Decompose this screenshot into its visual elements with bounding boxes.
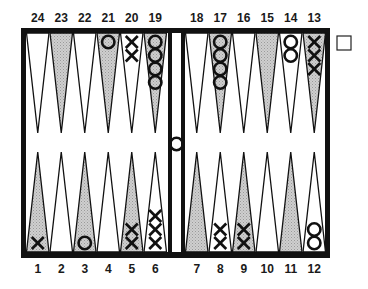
- label-point-11: 11: [284, 262, 297, 276]
- label-point-12: 12: [308, 262, 322, 276]
- doubling-cube[interactable]: [337, 36, 351, 50]
- bottom-point-labels: 123456789101112: [34, 262, 321, 276]
- label-point-13: 13: [308, 11, 322, 25]
- label-point-9: 9: [240, 262, 247, 276]
- label-point-17: 17: [214, 11, 228, 25]
- backgammon-board-diagram: 242322212019181716151413 123456789101112: [0, 0, 368, 289]
- label-point-10: 10: [261, 262, 275, 276]
- label-point-16: 16: [237, 11, 251, 25]
- label-point-14: 14: [284, 11, 298, 25]
- label-point-20: 20: [125, 11, 139, 25]
- label-point-1: 1: [34, 262, 41, 276]
- label-point-22: 22: [78, 11, 92, 25]
- label-point-5: 5: [128, 262, 135, 276]
- label-point-2: 2: [58, 262, 65, 276]
- right-half-board: [185, 33, 325, 252]
- top-point-labels: 242322212019181716151413: [31, 11, 321, 25]
- label-point-7: 7: [193, 262, 200, 276]
- bar[interactable]: [172, 33, 181, 252]
- label-point-8: 8: [217, 262, 224, 276]
- label-point-19: 19: [149, 11, 163, 25]
- label-point-3: 3: [81, 262, 88, 276]
- label-point-21: 21: [102, 11, 116, 25]
- left-half-board: [26, 33, 168, 252]
- label-point-15: 15: [261, 11, 275, 25]
- label-point-6: 6: [152, 262, 159, 276]
- label-point-18: 18: [190, 11, 204, 25]
- label-point-4: 4: [105, 262, 112, 276]
- label-point-24: 24: [31, 11, 45, 25]
- label-point-23: 23: [55, 11, 69, 25]
